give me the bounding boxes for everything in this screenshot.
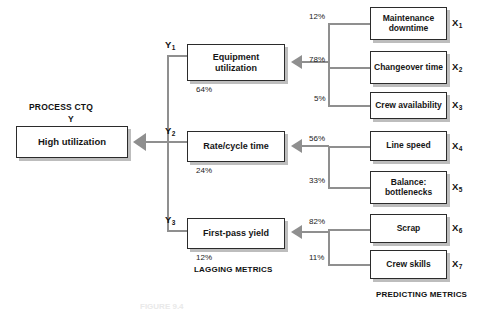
predicting-box-changeover-time: Changeover time (370, 51, 447, 84)
lagging-value-3: 12% (196, 253, 212, 262)
figure-caption-partial: FIGURE 9.4 (140, 302, 184, 309)
variable-tag-y2-letter: Y (165, 125, 171, 136)
variable-tag-y1-sub: 1 (172, 44, 176, 51)
lagging-box-rate-cycle-time: Rate/cycle time (187, 131, 285, 162)
arrow-to-rate-cycle-time (291, 139, 302, 153)
variable-tag-x6: X6 (452, 222, 462, 233)
arrow-to-ctq (133, 133, 146, 151)
connector-stub-y2 (167, 141, 188, 143)
predicting-pct-5: 33% (309, 176, 325, 185)
predicting-box-5-label: Balance: bottlenecks (371, 178, 446, 197)
variable-tag-x4-sub: 4 (459, 145, 463, 152)
lagging-metrics-heading: LAGGING METRICS (194, 265, 273, 274)
connector-x1-branch (328, 23, 370, 25)
variable-tag-x6-sub: 6 (459, 227, 463, 234)
ctq-box-label: High utilization (35, 137, 109, 148)
predicting-box-6-label: Scrap (394, 224, 424, 234)
ctq-box-high-utilization: High utilization (16, 126, 128, 158)
connector-x4-branch (328, 146, 370, 148)
variable-tag-x1-sub: 1 (459, 22, 463, 29)
connector-lagging-spine (167, 55, 169, 232)
predicting-box-2-label: Changeover time (371, 63, 446, 73)
connector-x5-branch (328, 187, 370, 189)
variable-tag-x5-sub: 5 (459, 186, 463, 193)
variable-tag-x7-letter: X (452, 258, 458, 269)
variable-tag-y2: Y2 (165, 125, 175, 136)
process-ctq-y-label: Y (68, 114, 74, 124)
variable-tag-x7-sub: 7 (459, 263, 463, 270)
variable-tag-y2-sub: 2 (172, 130, 176, 137)
lagging-value-1: 64% (196, 85, 212, 94)
predicting-pct-7: 11% (309, 253, 324, 262)
connector-stub-y1 (167, 55, 188, 57)
connector-x2-branch (328, 67, 370, 69)
variable-tag-y3-letter: Y (165, 214, 171, 225)
variable-tag-y1: Y1 (165, 39, 175, 50)
predicting-pct-4: 56% (309, 134, 325, 143)
variable-tag-y3-sub: 3 (172, 219, 176, 226)
predicting-box-7-label: Crew skills (383, 260, 433, 270)
connector-ctq-horizontal (146, 141, 168, 143)
variable-tag-x3-sub: 3 (459, 104, 463, 111)
variable-tag-x2: X2 (452, 61, 462, 72)
predicting-box-3-label: Crew availability (372, 101, 445, 111)
variable-tag-x4: X4 (452, 140, 462, 151)
variable-tag-x1: X1 (452, 17, 462, 28)
connector-group1-vertical (328, 23, 330, 105)
variable-tag-x5-letter: X (452, 181, 458, 192)
connector-arrow-tail-2 (302, 145, 329, 147)
connector-arrow-tail-3 (302, 231, 329, 233)
predicting-pct-2: 78% (309, 55, 325, 64)
arrow-to-equipment-utilization (291, 55, 302, 69)
connector-group3-vertical (328, 229, 330, 265)
diagram-canvas: PROCESS CTQ Y LAGGING METRICS PREDICTING… (0, 0, 479, 311)
predicting-box-maintenance-downtime: Maintenance downtime (370, 7, 447, 40)
process-ctq-heading: PROCESS CTQ (29, 102, 93, 112)
connector-stub-y3 (167, 230, 188, 232)
variable-tag-x7: X7 (452, 258, 462, 269)
predicting-metrics-heading: PREDICTING METRICS (376, 290, 467, 299)
predicting-box-scrap: Scrap (370, 214, 447, 243)
lagging-box-equipment-utilization: Equipment utilization (187, 44, 285, 81)
variable-tag-x1-letter: X (452, 17, 458, 28)
variable-tag-y3: Y3 (165, 214, 175, 225)
predicting-box-4-label: Line speed (383, 141, 433, 151)
variable-tag-x2-letter: X (452, 61, 458, 72)
variable-tag-x2-sub: 2 (459, 66, 463, 73)
predicting-box-crew-skills: Crew skills (370, 250, 447, 279)
lagging-box-first-pass-yield: First-pass yield (187, 218, 285, 249)
variable-tag-x5: X5 (452, 181, 462, 192)
lagging-value-2: 24% (196, 166, 212, 175)
variable-tag-x6-letter: X (452, 222, 458, 233)
predicting-box-line-speed: Line speed (370, 131, 447, 161)
predicting-box-crew-availability: Crew availability (370, 92, 447, 119)
arrow-to-first-pass-yield (291, 225, 302, 239)
variable-tag-x3-letter: X (452, 99, 458, 110)
connector-x3-branch (328, 105, 370, 107)
connector-x6-branch (328, 229, 370, 231)
connector-group2-vertical (328, 146, 330, 188)
lagging-box-3-label: First-pass yield (200, 228, 272, 238)
variable-tag-y1-letter: Y (165, 39, 171, 50)
connector-x7-branch (328, 264, 370, 266)
predicting-pct-6: 82% (309, 217, 325, 226)
variable-tag-x3: X3 (452, 99, 462, 110)
lagging-box-1-label: Equipment utilization (188, 52, 284, 72)
predicting-pct-1: 12% (309, 12, 325, 21)
predicting-box-balance-bottlenecks: Balance: bottlenecks (370, 171, 447, 204)
predicting-pct-3: 5% (314, 94, 326, 103)
lagging-box-2-label: Rate/cycle time (200, 141, 272, 151)
variable-tag-x4-letter: X (452, 140, 458, 151)
predicting-box-1-label: Maintenance downtime (371, 14, 446, 33)
